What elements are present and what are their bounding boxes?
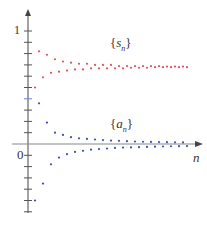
data-point	[46, 121, 48, 123]
data-point	[62, 60, 64, 62]
data-point	[122, 67, 124, 69]
data-point	[170, 145, 172, 147]
brace-close: }	[125, 35, 131, 50]
data-point	[90, 67, 92, 69]
data-point	[54, 58, 56, 60]
data-point	[118, 65, 120, 67]
data-point	[106, 67, 108, 69]
data-point	[90, 149, 92, 151]
data-point	[102, 64, 104, 66]
data-point	[170, 66, 172, 68]
series-label-s-n: {sn}	[110, 36, 132, 53]
data-point	[118, 140, 120, 142]
data-point	[34, 199, 36, 201]
data-point	[58, 156, 60, 158]
data-point	[94, 138, 96, 140]
data-point	[54, 132, 56, 134]
data-point	[102, 139, 104, 141]
data-point	[158, 65, 160, 67]
data-point	[154, 146, 156, 148]
data-point	[82, 150, 84, 152]
data-point	[110, 140, 112, 142]
data-point	[78, 63, 80, 65]
data-point	[122, 147, 124, 149]
data-point	[74, 151, 76, 153]
data-point	[166, 65, 168, 67]
data-point	[114, 67, 116, 69]
data-point	[182, 141, 184, 143]
data-point	[138, 67, 140, 69]
data-point	[178, 66, 180, 68]
data-point	[98, 148, 100, 150]
data-point	[70, 62, 72, 64]
data-point	[66, 69, 68, 71]
data-point	[138, 146, 140, 148]
plot-area	[0, 0, 207, 225]
data-point	[34, 86, 36, 88]
data-point	[134, 140, 136, 142]
data-point	[62, 134, 64, 136]
data-point	[38, 102, 40, 104]
x-axis-label: n	[193, 151, 200, 164]
data-point	[74, 68, 76, 70]
data-point	[130, 146, 132, 148]
data-point	[110, 64, 112, 66]
data-point	[182, 65, 184, 67]
data-point	[162, 66, 164, 68]
data-point	[58, 71, 60, 73]
data-point	[150, 141, 152, 143]
y-tick-label-1: 1	[14, 24, 20, 36]
data-point	[130, 67, 132, 69]
data-point	[158, 141, 160, 143]
chart: 1 0 n {sn} {an}	[0, 0, 207, 225]
data-point	[46, 54, 48, 56]
x-axis-arrow-icon	[195, 141, 203, 147]
data-point	[178, 145, 180, 147]
series-label-a-n: {an}	[110, 117, 133, 134]
data-point	[166, 141, 168, 143]
data-point	[38, 50, 40, 52]
data-point	[98, 67, 100, 69]
data-point	[186, 66, 188, 68]
data-point	[94, 64, 96, 66]
data-point	[66, 153, 68, 155]
data-point	[126, 65, 128, 67]
data-point	[42, 76, 44, 78]
data-point	[134, 65, 136, 67]
data-point	[70, 136, 72, 138]
data-point	[42, 182, 44, 184]
data-point	[86, 63, 88, 65]
series-s-n	[34, 50, 188, 88]
data-point	[162, 145, 164, 147]
data-point	[114, 147, 116, 149]
data-point	[174, 65, 176, 67]
data-point	[86, 138, 88, 140]
data-point	[150, 65, 152, 67]
data-point	[146, 146, 148, 148]
y-axis-arrow-icon	[25, 9, 31, 16]
data-point	[82, 68, 84, 70]
data-point	[126, 140, 128, 142]
data-point	[50, 163, 52, 165]
origin-label: 0	[17, 148, 24, 161]
data-point	[106, 147, 108, 149]
data-point	[186, 145, 188, 147]
data-point	[50, 72, 52, 74]
brace-close: }	[127, 116, 133, 131]
data-point	[174, 141, 176, 143]
data-point	[146, 67, 148, 69]
data-point	[142, 141, 144, 143]
data-point	[142, 65, 144, 67]
data-point	[78, 137, 80, 139]
data-point	[154, 66, 156, 68]
